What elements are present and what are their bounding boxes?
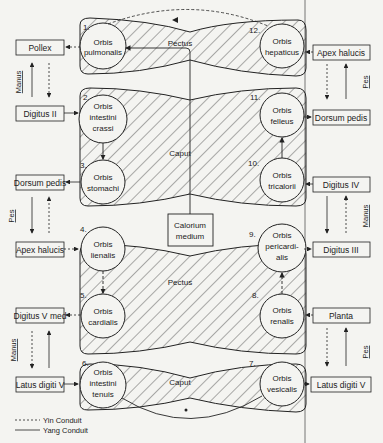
orb-conduit-diagram: Calorium medium 1. Orbis pulmonalis 2. O…: [0, 0, 383, 443]
svg-text:3.: 3.: [80, 161, 87, 170]
svg-text:stomachi: stomachi: [87, 184, 119, 193]
side-label-pes-1: Pes: [7, 209, 16, 222]
svg-text:7.: 7.: [249, 359, 256, 368]
svg-text:lienalis: lienalis: [91, 251, 115, 260]
svg-text:Orbis: Orbis: [272, 37, 291, 46]
svg-text:intestini: intestini: [89, 113, 116, 122]
svg-text:6.: 6.: [82, 359, 89, 368]
svg-text:4.: 4.: [80, 225, 87, 234]
svg-text:hepaticus: hepaticus: [265, 48, 299, 57]
right-box-digitus-iv: Digitus IV: [313, 177, 370, 192]
svg-text:Pollex: Pollex: [28, 43, 52, 53]
svg-text:Apex halucis: Apex halucis: [317, 48, 365, 58]
svg-text:intestini: intestini: [89, 379, 116, 388]
svg-text:Apex halucis: Apex halucis: [16, 245, 64, 255]
calorium-line1: Calorium: [174, 221, 206, 230]
right-box-digitus-iii: Digitus III: [313, 242, 370, 257]
right-box-latus-digiti-v: Latus digiti V: [311, 377, 371, 392]
orb-3: 3. Orbis stomachi: [80, 160, 125, 204]
orb-4: 4. Orbis lienalis: [80, 225, 125, 271]
side-label-pes-right-2: Pes: [361, 345, 370, 358]
svg-text:Orbis: Orbis: [272, 106, 291, 115]
svg-text:renalis: renalis: [270, 317, 294, 326]
svg-text:Orbis: Orbis: [93, 173, 112, 182]
svg-text:Orbis: Orbis: [93, 240, 112, 249]
orb-1: 1. Orbis pulmonalis: [80, 23, 126, 69]
left-box-pollex: Pollex: [16, 40, 64, 55]
svg-text:Orbis: Orbis: [272, 231, 291, 240]
svg-text:2.: 2.: [83, 93, 90, 102]
side-label-manus-1: Manus: [14, 70, 23, 93]
svg-text:Digitus III: Digitus III: [323, 245, 358, 255]
svg-text:Orbis: Orbis: [93, 307, 112, 316]
legend-yin-label: Yin Conduit: [43, 416, 82, 425]
left-box-apex-halucis: Apex halucis: [16, 242, 64, 257]
svg-text:8.: 8.: [252, 291, 259, 300]
svg-text:tricalorii: tricalorii: [268, 182, 296, 191]
left-box-digitus-ii: Digitus II: [16, 106, 64, 121]
svg-text:Latus digiti V: Latus digiti V: [16, 380, 65, 390]
svg-text:Digitus V med: Digitus V med: [14, 311, 67, 321]
calorium-medium-box: [168, 214, 213, 246]
label-caput-bottom: Caput: [169, 378, 191, 387]
calorium-line2: medium: [176, 232, 205, 241]
svg-text:Orbis: Orbis: [93, 102, 112, 111]
svg-text:felleus: felleus: [270, 117, 293, 126]
svg-text:1.: 1.: [83, 23, 90, 32]
label-caput-upper: Caput: [169, 149, 191, 158]
svg-text:Orbis: Orbis: [93, 38, 112, 47]
svg-text:Orbis: Orbis: [272, 306, 291, 315]
svg-text:Dorsum pedis: Dorsum pedis: [14, 178, 66, 188]
svg-text:10.: 10.: [248, 159, 259, 168]
svg-text:9.: 9.: [249, 230, 256, 239]
svg-text:Latus digiti V: Latus digiti V: [317, 380, 366, 390]
right-box-planta: Planta: [313, 308, 370, 323]
svg-text:Orbis: Orbis: [272, 374, 291, 383]
svg-text:crassi: crassi: [93, 124, 114, 133]
svg-text:pulmonalis: pulmonalis: [84, 48, 122, 57]
svg-text:12.: 12.: [249, 26, 260, 35]
svg-text:Orbis: Orbis: [272, 171, 291, 180]
side-label-manus-2: Manus: [9, 338, 18, 361]
svg-text:Planta: Planta: [329, 311, 353, 321]
left-box-latus-digiti-v: Latus digiti V: [16, 377, 65, 392]
svg-text:Dorsum pedis: Dorsum pedis: [315, 113, 367, 123]
svg-text:pericardi-: pericardi-: [265, 242, 299, 251]
left-box-digitus-v-med: Digitus V med: [14, 308, 67, 323]
label-pectus-top: Pectus: [168, 39, 192, 48]
svg-text:alis: alis: [276, 253, 288, 262]
right-box-apex-halucis: Apex halucis: [313, 45, 370, 60]
svg-text:Digitus II: Digitus II: [23, 109, 56, 119]
right-box-dorsum-pedis: Dorsum pedis: [313, 110, 370, 125]
svg-text:11.: 11.: [250, 93, 261, 102]
svg-text:tenuis: tenuis: [92, 390, 113, 399]
svg-text:Orbis: Orbis: [93, 368, 112, 377]
side-label-manus-right: Manus: [361, 204, 370, 227]
svg-text:vesicalis: vesicalis: [267, 385, 297, 394]
svg-text:Digitus IV: Digitus IV: [323, 180, 360, 190]
legend-yang-label: Yang Conduit: [43, 426, 89, 435]
legend: Yin Conduit Yang Conduit: [15, 416, 89, 435]
label-pectus-mid: Pectus: [168, 278, 192, 287]
left-box-dorsum-pedis: Dorsum pedis: [14, 175, 66, 190]
svg-text:5.: 5.: [80, 291, 87, 300]
svg-text:cardialis: cardialis: [88, 318, 117, 327]
side-label-pes-right-1: Pes: [361, 75, 370, 88]
